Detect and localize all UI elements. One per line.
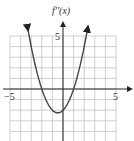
y-tick-5: 5 [55,32,60,42]
chart-plot [0,0,134,141]
x-tick-minus-5: −5 [4,92,15,102]
x-tick-5: 5 [113,92,118,102]
y-axis-label: f''(x) [52,6,70,16]
